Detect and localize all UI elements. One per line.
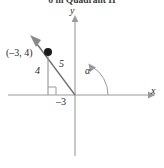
reference-angle-label: α	[85, 66, 90, 76]
point-coordinates-label: (–3, 4)	[6, 48, 33, 58]
y-axis	[72, 15, 79, 156]
hypotenuse-label: 5	[59, 59, 64, 69]
y-axis-label: y	[70, 6, 74, 16]
right-angle-marker	[48, 87, 56, 95]
figure-title: θ in Quadrant II	[0, 0, 164, 6]
x-axis-label: x	[151, 86, 155, 96]
coordinate-diagram	[0, 0, 164, 168]
reference-angle-arc	[89, 64, 109, 96]
x-intercept-label: –3	[56, 97, 66, 107]
quadrant-ii-angle-figure: θ in Quadrant II y x (–3, 4) 4 5 –3 α	[0, 0, 164, 168]
vertical-leg-label: 4	[35, 66, 40, 76]
plotted-point	[44, 48, 52, 56]
x-axis	[8, 92, 156, 99]
